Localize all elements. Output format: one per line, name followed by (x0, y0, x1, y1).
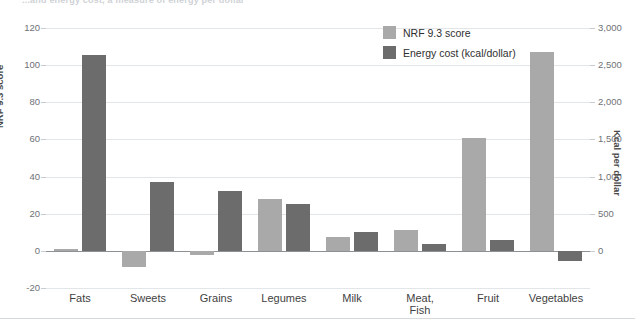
category-label-fats: Fats (46, 292, 114, 304)
bar-nrf[interactable] (462, 138, 486, 251)
bar-nrf[interactable] (394, 230, 418, 250)
right-axis-tick-2500: 2,500 (598, 60, 635, 70)
bar-energy-cost[interactable] (150, 182, 174, 251)
plot-area (46, 28, 590, 288)
bar-group (46, 28, 114, 288)
left-axis-tick-20: 20 (6, 209, 40, 219)
left-axis-tick-40: 40 (6, 172, 40, 182)
legend: NRF 9.3 score Energy cost (kcal/dollar) (383, 24, 516, 64)
category-label-vegetables: Vegetables (522, 292, 590, 304)
right-axis-tick-3000: 3,000 (598, 23, 635, 33)
left-axis-tick--20: -20 (6, 283, 40, 293)
left-axis-tickmark (41, 214, 46, 215)
left-axis-tickmark (41, 65, 46, 66)
category-label-sweets: Sweets (114, 292, 182, 304)
legend-swatch-icon-nrf (383, 26, 396, 39)
right-axis-tickmark (590, 139, 595, 140)
legend-label-energy-cost: Energy cost (kcal/dollar) (403, 47, 516, 59)
category-label-legumes: Legumes (250, 292, 318, 304)
legend-label-nrf: NRF 9.3 score (403, 27, 471, 39)
bar-energy-cost[interactable] (558, 251, 582, 261)
gridline (46, 288, 590, 289)
left-axis-tickmark (41, 28, 46, 29)
right-axis-tick-0: 0 (598, 246, 635, 256)
right-axis-tickmark (590, 102, 595, 103)
category-label-meat-fish: Meat,Fish (386, 292, 454, 316)
right-axis-tickmark (590, 251, 595, 252)
legend-swatch-icon-energy-cost (383, 46, 396, 59)
bar-nrf[interactable] (326, 237, 350, 251)
left-axis-tickmark (41, 102, 46, 103)
bar-group (182, 28, 250, 288)
bar-nrf[interactable] (122, 251, 146, 267)
bar-energy-cost[interactable] (422, 244, 446, 251)
right-axis-tick-2000: 2,000 (598, 97, 635, 107)
chart-title: ...and energy cost, a measure of energy … (22, 0, 442, 7)
left-axis-tick-60: 60 (6, 134, 40, 144)
category-label-fruit: Fruit (454, 292, 522, 304)
legend-item-energy-cost[interactable]: Energy cost (kcal/dollar) (383, 44, 516, 61)
bar-group (114, 28, 182, 288)
bar-nrf[interactable] (530, 52, 554, 251)
bar-nrf[interactable] (54, 249, 78, 251)
left-axis-tickmark (41, 139, 46, 140)
right-axis-tickmark (590, 177, 595, 178)
bar-nrf[interactable] (190, 251, 214, 255)
right-axis-title: Kcal per dollar (612, 130, 623, 196)
bar-group (454, 28, 522, 288)
bar-energy-cost[interactable] (82, 55, 106, 251)
bar-group (318, 28, 386, 288)
category-label-milk: Milk (318, 292, 386, 304)
bar-group (522, 28, 590, 288)
bar-energy-cost[interactable] (490, 240, 514, 250)
left-axis-title: NRF 9.3 score (0, 65, 5, 128)
right-axis-tickmark (590, 214, 595, 215)
right-axis-tickmark (590, 28, 595, 29)
right-axis-tick-500: 500 (598, 209, 635, 219)
bar-energy-cost[interactable] (286, 204, 310, 251)
bar-nrf[interactable] (258, 199, 282, 251)
chart-container: ...and energy cost, a measure of energy … (0, 0, 635, 319)
category-label-grains: Grains (182, 292, 250, 304)
bar-energy-cost[interactable] (354, 232, 378, 251)
left-axis-tickmark (41, 288, 46, 289)
bar-group (250, 28, 318, 288)
left-axis-tick-120: 120 (6, 23, 40, 33)
left-axis-tickmark (41, 177, 46, 178)
left-axis-tick-100: 100 (6, 60, 40, 70)
legend-item-nrf[interactable]: NRF 9.3 score (383, 24, 516, 41)
left-axis-tickmark (41, 251, 46, 252)
bar-energy-cost[interactable] (218, 191, 242, 251)
bar-group (386, 28, 454, 288)
right-axis-tickmark (590, 65, 595, 66)
left-axis-tick-0: 0 (6, 246, 40, 256)
left-axis-tick-80: 80 (6, 97, 40, 107)
